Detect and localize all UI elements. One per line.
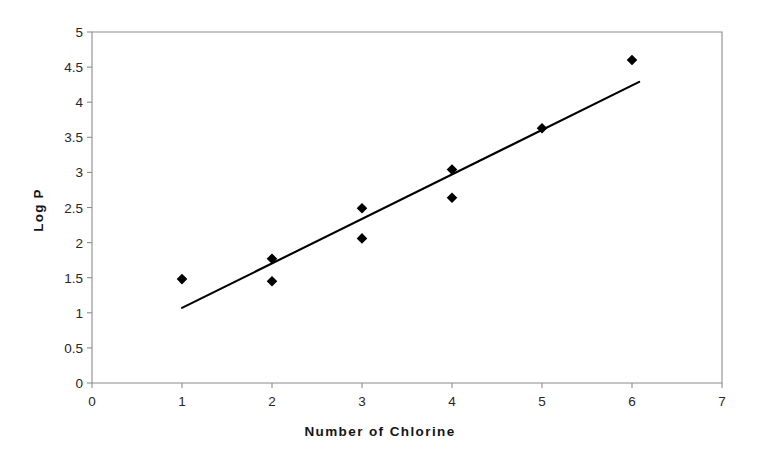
x-tick-label: 2: [268, 394, 276, 409]
y-tick-label: 2.5: [64, 200, 83, 215]
x-axis-title: Number of Chlorine: [0, 424, 760, 439]
data-point: [628, 56, 637, 65]
axis-ticks: [87, 32, 722, 388]
y-tick-label: 5: [75, 25, 83, 40]
plot-canvas: [0, 0, 760, 457]
y-tick-label: 3: [75, 165, 83, 180]
y-tick-label: 2: [75, 235, 83, 250]
x-tick-label: 7: [718, 394, 726, 409]
y-tick-label: 3.5: [64, 130, 83, 145]
y-tick-label: 0: [75, 376, 83, 391]
trend-line: [182, 82, 639, 308]
x-tick-label: 5: [538, 394, 546, 409]
data-points: [178, 56, 637, 286]
y-tick-label: 4: [75, 95, 83, 110]
y-axis-title-wrapper: Log P: [18, 150, 58, 270]
data-point: [268, 277, 277, 286]
y-tick-label: 0.5: [64, 340, 83, 355]
y-tick-label: 4.5: [64, 60, 83, 75]
x-tick-label: 6: [628, 394, 636, 409]
x-tick-label: 4: [448, 394, 456, 409]
x-tick-label: 3: [358, 394, 366, 409]
chart-container: 00.511.522.533.544.55 01234567 Log P Num…: [0, 0, 760, 457]
data-point: [358, 234, 367, 243]
data-point: [358, 204, 367, 213]
data-point: [448, 193, 457, 202]
data-point: [178, 275, 187, 284]
x-tick-label: 1: [178, 394, 186, 409]
y-axis-title: Log P: [31, 188, 46, 232]
plot-frame: [92, 32, 722, 383]
y-tick-label: 1: [75, 305, 83, 320]
x-tick-label: 0: [88, 394, 96, 409]
y-tick-label: 1.5: [64, 270, 83, 285]
